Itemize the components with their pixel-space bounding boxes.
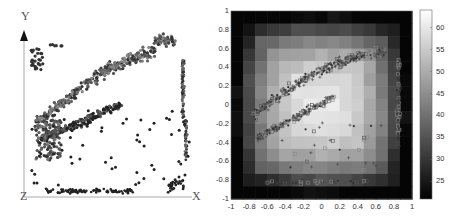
x-axis-label: X <box>192 189 201 204</box>
y-tick-label: 1 <box>209 6 229 15</box>
colorbar-tick-label: 35 <box>436 132 444 141</box>
y-tick-label: 0.8 <box>209 25 229 34</box>
colorbar-tick-label: 30 <box>436 154 444 163</box>
x-tick-label: 0.2 <box>333 202 347 211</box>
x-tick-label: 0.6 <box>369 202 383 211</box>
colorbar-tick-label: 60 <box>436 23 444 32</box>
colorbar-tick-label: 40 <box>436 110 444 119</box>
x-tick-label: -1 <box>224 202 238 211</box>
x-tick-label: 0.8 <box>387 202 401 211</box>
y-tick-label: -0.4 <box>209 138 229 147</box>
x-tick-label: 0.4 <box>351 202 365 211</box>
scatter-3d-plot <box>0 0 215 217</box>
x-tick-label: 0 <box>315 202 329 211</box>
y-tick-label: 0 <box>209 100 229 109</box>
colorbar-tick-label: 45 <box>436 89 444 98</box>
y-axis-label: Y <box>21 9 30 24</box>
heatmap-plot <box>215 0 460 217</box>
x-tick-label: -0.4 <box>278 202 292 211</box>
y-tick-label: -0.2 <box>209 119 229 128</box>
x-tick-label: -0.6 <box>260 202 274 211</box>
right-heatmap-panel: -1-0.8-0.6-0.4-0.200.20.40.60.81 10.80.6… <box>215 0 460 217</box>
y-tick-label: -1 <box>209 194 229 203</box>
y-tick-label: -0.6 <box>209 156 229 165</box>
y-tick-label: 0.4 <box>209 62 229 71</box>
z-axis-label: Z <box>20 189 27 204</box>
colorbar-tick-label: 55 <box>436 45 444 54</box>
colorbar-tick-label: 50 <box>436 67 444 76</box>
x-tick-label: -0.8 <box>242 202 256 211</box>
x-tick-label: -0.2 <box>296 202 310 211</box>
left-scatter-panel: Y Z X <box>0 0 215 217</box>
y-tick-label: -0.8 <box>209 175 229 184</box>
y-tick-label: 0.2 <box>209 81 229 90</box>
colorbar-tick-label: 25 <box>436 176 444 185</box>
y-tick-label: 0.6 <box>209 44 229 53</box>
x-tick-label: 1 <box>405 202 419 211</box>
